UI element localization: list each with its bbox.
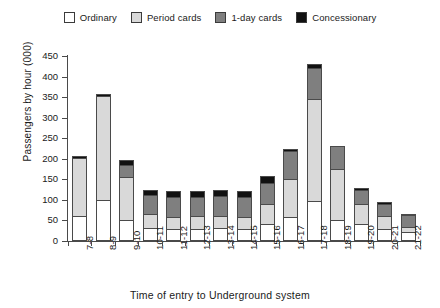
bar-segment-1-day-cards (143, 195, 158, 214)
bar-segment-1-day-cards (190, 197, 205, 217)
bar-segment-period-cards (260, 204, 275, 224)
y-axis-tick-label: 300 (28, 112, 58, 123)
bar-7-8[interactable] (72, 156, 87, 241)
legend-swatch-icon (131, 12, 142, 23)
x-axis-tick (373, 241, 374, 246)
x-axis-tick (279, 241, 280, 246)
x-axis-tick-label: 17-18 (318, 225, 329, 250)
x-axis-tick-label: 12-13 (201, 225, 212, 250)
y-axis-tick-label: 250 (28, 132, 58, 143)
legend-item-1-day-cards[interactable]: 1-day cards (215, 12, 282, 23)
legend-swatch-icon (296, 12, 307, 23)
legend-swatch-icon (64, 12, 75, 23)
bar-segment-1-day-cards (166, 197, 181, 218)
bar-segment-1-day-cards (330, 146, 345, 169)
x-axis-tick (91, 241, 92, 246)
y-axis-tick-label: 0 (28, 235, 58, 246)
y-axis-tick (62, 159, 67, 160)
bar-segment-1-day-cards (354, 190, 369, 204)
y-axis-tick (62, 138, 67, 139)
legend-item-concessionary[interactable]: Concessionary (296, 12, 376, 23)
legend-item-label: 1-day cards (231, 12, 282, 23)
legend-item-label: Period cards (147, 12, 202, 23)
x-axis-tick (350, 241, 351, 246)
y-axis-tick-label: 200 (28, 153, 58, 164)
legend-item-label: Ordinary (80, 12, 117, 23)
bar-segment-period-cards (330, 169, 345, 220)
bar-segment-ordinary (96, 200, 111, 241)
x-axis-tick-label: 21-22 (412, 225, 423, 250)
y-axis-label: Passengers by hour (000) (22, 12, 33, 192)
bar-segment-1-day-cards (260, 183, 275, 204)
y-axis-tick (62, 220, 67, 221)
y-axis-tick (62, 241, 67, 242)
x-axis-tick-label: 7-8 (84, 236, 95, 250)
x-axis-tick (303, 241, 304, 246)
y-axis-tick-label: 50 (28, 214, 58, 225)
legend-item-ordinary[interactable]: Ordinary (64, 12, 117, 23)
x-axis-tick-label: 10-11 (154, 226, 165, 250)
x-axis-tick-label: 13-14 (225, 225, 236, 250)
x-axis-tick (209, 241, 210, 246)
x-axis-tick (420, 241, 421, 246)
x-axis-tick-label: 15-16 (271, 225, 282, 250)
x-axis-tick-label: 20-21 (389, 225, 400, 250)
y-axis-tick-label: 100 (28, 194, 58, 205)
bar-segment-period-cards (119, 177, 134, 220)
x-axis-tick (397, 241, 398, 246)
y-axis-tick-label: 350 (28, 91, 58, 102)
legend-item-period-cards[interactable]: Period cards (131, 12, 202, 23)
y-axis-tick (62, 118, 67, 119)
bar-segment-1-day-cards (377, 204, 392, 216)
x-axis-tick (232, 241, 233, 246)
y-axis-tick (62, 97, 67, 98)
bar-segment-period-cards (96, 96, 111, 200)
y-axis-tick (62, 200, 67, 201)
x-axis-tick (138, 241, 139, 246)
legend-item-label: Concessionary (312, 12, 376, 23)
bar-segment-period-cards (283, 179, 298, 217)
bar-segment-1-day-cards (237, 197, 252, 218)
x-axis-label: Time of entry to Underground system (0, 289, 440, 301)
x-axis-tick-label: 11-12 (178, 226, 189, 250)
x-axis-tick (162, 241, 163, 246)
bar-segment-1-day-cards (119, 165, 134, 177)
stacked-bar-chart: OrdinaryPeriod cards1-day cardsConcessio… (0, 0, 440, 308)
y-axis-tick-label: 150 (28, 173, 58, 184)
y-axis-tick-label: 400 (28, 71, 58, 82)
x-axis-tick (115, 241, 116, 246)
x-axis-tick (326, 241, 327, 246)
bar-17-18[interactable] (307, 64, 322, 241)
plot-area (68, 56, 420, 241)
x-axis-tick-label: 14-15 (248, 225, 259, 250)
bar-segment-period-cards (307, 99, 322, 201)
bar-segment-1-day-cards (283, 151, 298, 179)
legend-swatch-icon (215, 12, 226, 23)
bar-segment-period-cards (354, 204, 369, 224)
x-axis-tick (68, 241, 69, 246)
x-axis-tick-label: 9-10 (131, 231, 142, 250)
y-axis-tick (62, 77, 67, 78)
y-axis-tick (62, 179, 67, 180)
bar-segment-1-day-cards (213, 196, 228, 216)
x-axis-tick-label: 18-19 (342, 225, 353, 250)
chart-legend: OrdinaryPeriod cards1-day cardsConcessio… (0, 12, 440, 23)
bar-segment-1-day-cards (307, 68, 322, 99)
x-axis-tick (185, 241, 186, 246)
bar-segment-period-cards (72, 158, 87, 216)
bar-9-10[interactable] (119, 160, 134, 241)
x-axis-tick-label: 8-9 (107, 236, 118, 250)
y-axis-tick-label: 450 (28, 50, 58, 61)
x-axis-tick-label: 16-17 (295, 225, 306, 250)
x-axis-tick-label: 19-20 (365, 225, 376, 250)
x-axis-tick (256, 241, 257, 246)
y-axis-tick (62, 56, 67, 57)
bar-8-9[interactable] (96, 94, 111, 241)
